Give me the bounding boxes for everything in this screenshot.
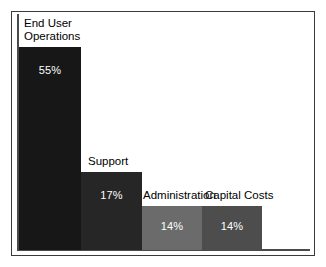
plot-area: 55% End User Operations 17% Support 14% … bbox=[0, 0, 326, 267]
bar-capital-costs[interactable]: 14% bbox=[202, 206, 262, 250]
bar-label-end-user-operations-line1: End User bbox=[24, 17, 80, 30]
bar-label-end-user-operations: End User Operations bbox=[24, 17, 80, 43]
bar-value-support: 17% bbox=[81, 189, 142, 201]
bar-support[interactable]: 17% bbox=[81, 172, 142, 250]
bar-administration[interactable]: 14% bbox=[142, 206, 202, 250]
bar-value-end-user-operations: 55% bbox=[19, 64, 81, 76]
bar-value-administration: 14% bbox=[142, 220, 202, 232]
bar-label-support: Support bbox=[88, 155, 128, 168]
bar-end-user-operations[interactable]: 55% bbox=[19, 47, 81, 250]
bar-label-capital-costs: Capital Costs bbox=[205, 189, 273, 202]
bar-value-capital-costs: 14% bbox=[202, 220, 262, 232]
bar-label-end-user-operations-line2: Operations bbox=[24, 30, 80, 43]
bar-chart-figure: 55% End User Operations 17% Support 14% … bbox=[0, 0, 326, 267]
